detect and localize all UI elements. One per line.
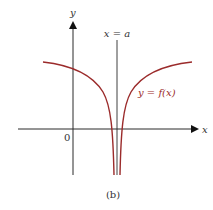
x-axis-arrow-icon: [191, 125, 199, 133]
curve-left-branch: [43, 62, 114, 175]
origin-label: 0: [64, 132, 70, 143]
figure-diagram: x y 0 x = a y = f(x) (b): [0, 0, 213, 210]
y-axis-arrow-icon: [69, 21, 77, 29]
asymptote-label: x = a: [104, 28, 130, 39]
function-label: y = f(x): [137, 87, 176, 98]
x-axis-label: x: [202, 124, 208, 135]
y-axis-label: y: [69, 7, 76, 18]
curve-right-branch: [120, 62, 192, 175]
figure-caption: (b): [106, 189, 120, 200]
